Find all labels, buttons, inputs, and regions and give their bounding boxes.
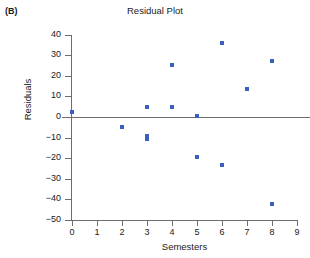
data-point xyxy=(220,163,224,167)
y-tick-label: −40 xyxy=(21,194,61,203)
data-point xyxy=(270,59,274,63)
data-point xyxy=(120,125,124,129)
y-tick xyxy=(65,96,71,97)
x-tick-label: 9 xyxy=(287,228,307,237)
x-tick-label: 2 xyxy=(112,228,132,237)
y-tick-label: −50 xyxy=(21,215,61,224)
data-point xyxy=(270,202,274,206)
x-tick xyxy=(222,221,223,226)
x-tick xyxy=(72,221,73,226)
x-axis-title: Semesters xyxy=(71,241,298,252)
x-tick-label: 7 xyxy=(237,228,257,237)
y-tick xyxy=(65,220,71,221)
x-tick xyxy=(272,221,273,226)
y-tick xyxy=(65,199,71,200)
data-point xyxy=(145,137,149,141)
residual-plot-figure: (B) Residual Plot 403020100−10−20−30−40−… xyxy=(0,0,310,258)
chart-title: Residual Plot xyxy=(0,5,310,16)
data-point xyxy=(245,87,249,91)
y-tick xyxy=(65,55,71,56)
y-tick xyxy=(65,138,71,139)
y-tick-label: 40 xyxy=(21,30,61,39)
data-point xyxy=(170,105,174,109)
x-axis-spine xyxy=(71,220,298,221)
x-tick-label: 6 xyxy=(212,228,232,237)
data-point xyxy=(220,41,224,45)
data-point xyxy=(145,105,149,109)
x-tick-label: 3 xyxy=(137,228,157,237)
y-tick-label: −30 xyxy=(21,174,61,183)
x-tick xyxy=(172,221,173,226)
y-tick xyxy=(65,117,71,118)
x-tick-label: 4 xyxy=(162,228,182,237)
y-tick xyxy=(65,179,71,180)
data-point xyxy=(70,110,74,114)
x-tick-label: 5 xyxy=(187,228,207,237)
x-tick-label: 1 xyxy=(87,228,107,237)
x-tick-label: 8 xyxy=(262,228,282,237)
x-tick xyxy=(247,221,248,226)
y-axis-title: Residuals xyxy=(22,55,33,145)
y-tick xyxy=(65,158,71,159)
x-tick xyxy=(297,221,298,226)
y-tick-label: −20 xyxy=(21,153,61,162)
data-point xyxy=(170,63,174,67)
data-point xyxy=(195,114,199,118)
x-tick xyxy=(147,221,148,226)
y-tick xyxy=(65,76,71,77)
x-tick-label: 0 xyxy=(62,228,82,237)
x-tick xyxy=(197,221,198,226)
data-point xyxy=(195,155,199,159)
plot-area xyxy=(72,35,297,220)
x-tick xyxy=(97,221,98,226)
x-tick xyxy=(122,221,123,226)
y-tick xyxy=(65,35,71,36)
